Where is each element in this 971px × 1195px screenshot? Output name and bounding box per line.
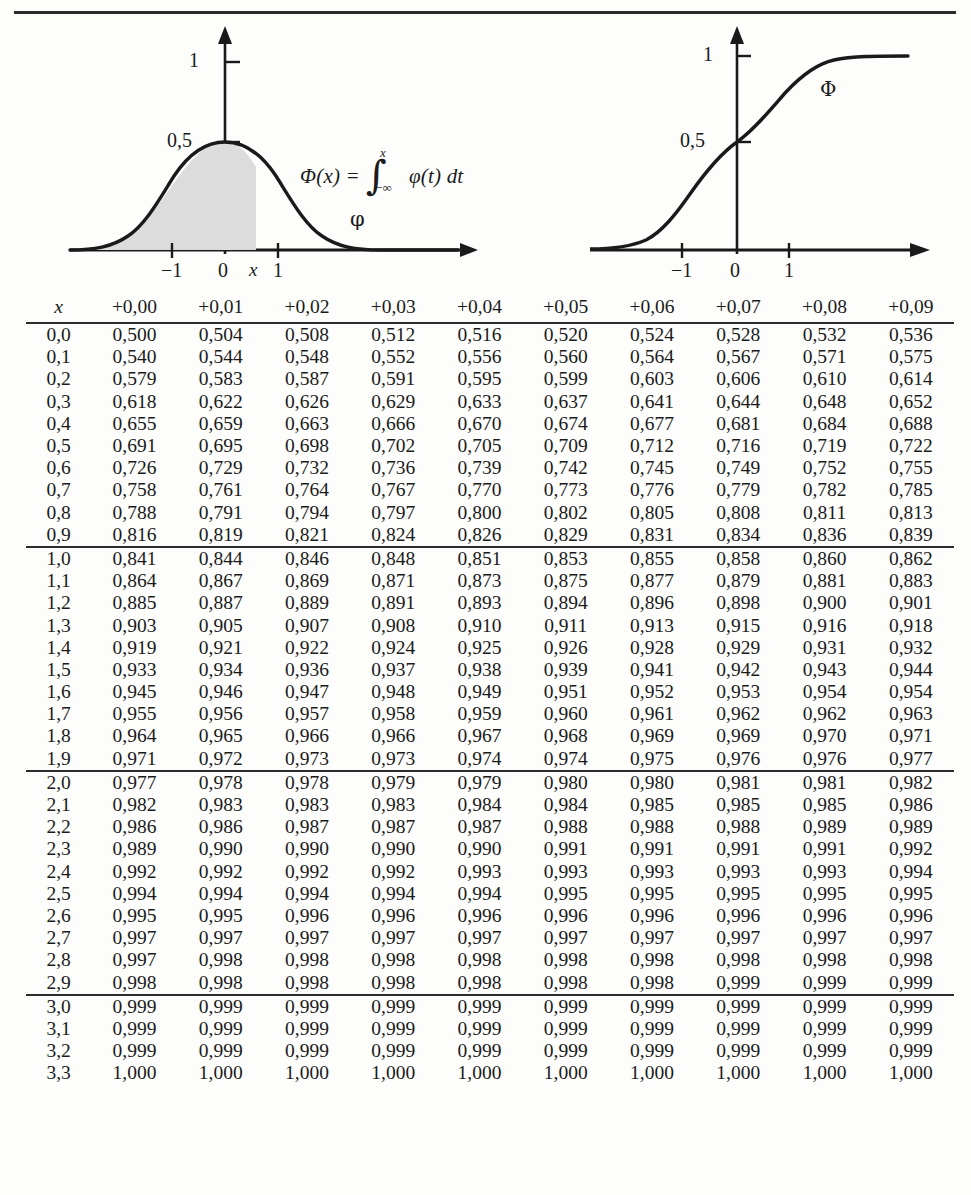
table-cell: 0,946 [178, 681, 264, 703]
table-row: 2,40,9920,9920,9920,9920,9930,9930,9930,… [26, 861, 954, 883]
table-cell: 0,916 [781, 614, 867, 636]
table-cell: 0,932 [868, 637, 954, 659]
table-cell: 0,983 [178, 794, 264, 816]
density-xtick-label-0: 0 [218, 259, 228, 282]
row-header-x: 0,1 [26, 346, 91, 368]
table-row: 1,50,9330,9340,9360,9370,9380,9390,9410,… [26, 659, 954, 681]
row-header-x: 0,8 [26, 502, 91, 524]
row-header-x: 1,0 [26, 547, 91, 570]
page: 1 0,5 −1 0 x 1 φ 1 0,5 −1 [0, 0, 971, 1195]
table-cell: 0,934 [178, 659, 264, 681]
table-cell: 0,959 [436, 703, 522, 725]
table-cell: 0,999 [178, 1040, 264, 1062]
table-row: 0,30,6180,6220,6260,6290,6330,6370,6410,… [26, 391, 954, 413]
table-cell: 0,997 [781, 927, 867, 949]
table-cell: 0,998 [350, 971, 436, 994]
table-row: 1,80,9640,9650,9660,9660,9670,9680,9690,… [26, 725, 954, 747]
table-cell: 0,999 [91, 1040, 177, 1062]
table-cell: 0,641 [609, 391, 695, 413]
table-cell: 0,552 [350, 346, 436, 368]
table-cell: 0,915 [695, 614, 781, 636]
table-cell: 0,520 [523, 323, 609, 346]
table-cell: 0,758 [91, 479, 177, 501]
table-cell: 0,999 [178, 995, 264, 1018]
table-cell: 0,957 [264, 703, 350, 725]
table-cell: 0,805 [609, 502, 695, 524]
table-cell: 0,626 [264, 391, 350, 413]
table-cell: 0,921 [178, 637, 264, 659]
table-cell: 0,610 [781, 368, 867, 390]
table-cell: 0,587 [264, 368, 350, 390]
table-cell: 0,528 [695, 323, 781, 346]
table-cell: 0,606 [695, 368, 781, 390]
table-cell: 0,603 [609, 368, 695, 390]
table-cell: 0,998 [350, 949, 436, 971]
table-cell: 0,999 [781, 1018, 867, 1040]
table-cell: 0,855 [609, 547, 695, 570]
table-cell: 0,938 [436, 659, 522, 681]
table-cell: 0,928 [609, 637, 695, 659]
table-cell: 0,979 [350, 771, 436, 794]
row-header-x: 3,1 [26, 1018, 91, 1040]
table-cell: 0,956 [178, 703, 264, 725]
table-cell: 0,560 [523, 346, 609, 368]
density-plot-svg [60, 22, 490, 287]
table-cell: 0,791 [178, 502, 264, 524]
table-cell: 0,691 [91, 435, 177, 457]
table-cell: 0,732 [264, 457, 350, 479]
cdf-plot-svg [590, 22, 950, 287]
table-cell: 0,977 [868, 748, 954, 771]
row-header-x: 0,7 [26, 479, 91, 501]
table-cell: 0,999 [868, 971, 954, 994]
table-cell: 0,980 [523, 771, 609, 794]
density-shaded-area [72, 142, 256, 250]
table-row: 3,20,9990,9990,9990,9990,9990,9990,9990,… [26, 1040, 954, 1062]
table-cell: 1,000 [868, 1062, 954, 1084]
table-cell: 0,633 [436, 391, 522, 413]
table-cell: 0,998 [523, 949, 609, 971]
table-cell: 0,955 [91, 703, 177, 725]
table-cell: 0,960 [523, 703, 609, 725]
table-cell: 0,666 [350, 413, 436, 435]
table-cell: 0,999 [350, 995, 436, 1018]
table-cell: 0,999 [695, 971, 781, 994]
density-xtick-label-x: x [249, 259, 257, 281]
row-header-x: 1,7 [26, 703, 91, 725]
table-cell: 0,995 [695, 883, 781, 905]
row-header-x: 2,8 [26, 949, 91, 971]
row-header-x: 2,7 [26, 927, 91, 949]
table-cell: 0,629 [350, 391, 436, 413]
table-cell: 0,709 [523, 435, 609, 457]
table-row: 1,30,9030,9050,9070,9080,9100,9110,9130,… [26, 614, 954, 636]
table-cell: 0,995 [868, 883, 954, 905]
table-cell: 0,779 [695, 479, 781, 501]
phi-definition-formula: Φ(x) =∫x−∞φ(t) dt [300, 164, 463, 189]
table-row: 2,90,9980,9980,9980,9980,9980,9980,9980,… [26, 971, 954, 994]
density-y-axis-arrow [218, 26, 232, 44]
table-cell: 0,987 [264, 816, 350, 838]
table-cell: 0,954 [868, 681, 954, 703]
table-cell: 0,997 [91, 949, 177, 971]
standard-normal-density-figure: 1 0,5 −1 0 x 1 φ [60, 22, 490, 287]
table-cell: 0,811 [781, 502, 867, 524]
table-cell: 0,993 [695, 861, 781, 883]
table-cell: 0,891 [350, 592, 436, 614]
table-cell: 0,962 [781, 703, 867, 725]
table-cell: 0,867 [178, 570, 264, 592]
table-cell: 0,982 [91, 794, 177, 816]
table-cell: 0,931 [781, 637, 867, 659]
table-cell: 0,681 [695, 413, 781, 435]
table-cell: 0,993 [523, 861, 609, 883]
table-cell: 0,999 [609, 1040, 695, 1062]
column-header-plus-002: +0,02 [264, 292, 350, 323]
table-cell: 0,788 [91, 502, 177, 524]
row-header-x: 1,6 [26, 681, 91, 703]
row-header-x: 1,4 [26, 637, 91, 659]
table-row: 3,00,9990,9990,9990,9990,9990,9990,9990,… [26, 995, 954, 1018]
table-cell: 0,648 [781, 391, 867, 413]
row-header-x: 3,3 [26, 1062, 91, 1084]
table-body: 0,00,5000,5040,5080,5120,5160,5200,5240,… [26, 323, 954, 1084]
table-cell: 0,997 [868, 927, 954, 949]
table-cell: 0,860 [781, 547, 867, 570]
cdf-curve-label: Φ [820, 77, 836, 101]
